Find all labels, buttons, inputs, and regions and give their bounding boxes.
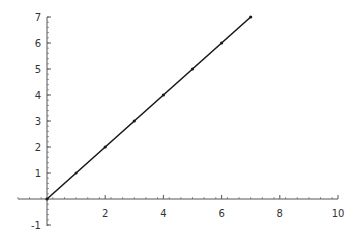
axes — [18, 17, 338, 226]
y-tick-label: 7 — [35, 12, 41, 23]
data-line — [47, 17, 251, 199]
series-layer — [45, 15, 252, 200]
chart-canvas: 246810-11234567 — [0, 0, 363, 237]
y-tick-label: 5 — [35, 64, 41, 75]
data-point — [45, 197, 48, 200]
y-tick-label: -1 — [31, 220, 41, 231]
data-point — [104, 145, 107, 148]
x-tick-label: 4 — [160, 208, 166, 219]
data-point — [133, 119, 136, 122]
x-tick-label: 6 — [218, 208, 224, 219]
data-point — [249, 15, 252, 18]
x-tick-label: 8 — [277, 208, 283, 219]
y-tick-label: 1 — [35, 168, 41, 179]
data-point — [191, 67, 194, 70]
x-tick-label: 2 — [102, 208, 108, 219]
x-tick-label: 10 — [332, 208, 345, 219]
data-point — [220, 41, 223, 44]
y-tick-label: 4 — [35, 90, 41, 101]
data-point — [162, 93, 165, 96]
y-tick-label: 3 — [35, 116, 41, 127]
y-tick-label: 2 — [35, 142, 41, 153]
data-point — [75, 171, 78, 174]
y-tick-label: 6 — [35, 38, 41, 49]
